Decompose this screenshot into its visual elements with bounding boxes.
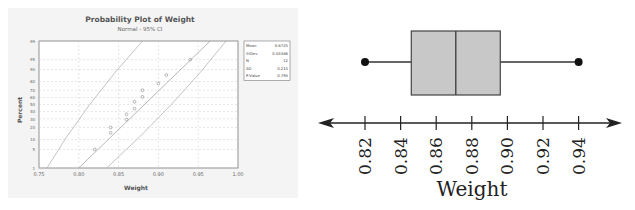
- svg-text:20: 20: [30, 125, 36, 130]
- svg-text:0.03386: 0.03386: [272, 51, 288, 56]
- tick-label: 0.86: [426, 137, 446, 175]
- svg-text:80: 80: [30, 79, 36, 84]
- probability-plot-svg: Probability Plot of Weight Normal - 95% …: [8, 8, 298, 198]
- svg-text:0.793: 0.793: [277, 73, 288, 78]
- min-point: [361, 58, 369, 66]
- svg-text:5: 5: [32, 147, 35, 152]
- prob-plot-ylabel: Percent: [16, 97, 23, 123]
- svg-text:1.00: 1.00: [232, 171, 243, 177]
- tick-label: 0.94: [569, 137, 589, 175]
- svg-text:30: 30: [30, 117, 36, 122]
- probability-plot: Probability Plot of Weight Normal - 95% …: [8, 8, 298, 198]
- svg-text:P-Value: P-Value: [246, 73, 260, 78]
- tick-label: 0.90: [497, 137, 517, 175]
- svg-text:0.90: 0.90: [153, 171, 164, 177]
- svg-text:12: 12: [283, 58, 288, 63]
- svg-text:70: 70: [30, 88, 36, 93]
- svg-text:0.85: 0.85: [113, 171, 124, 177]
- tick-label: 0.92: [533, 137, 553, 175]
- svg-text:AD: AD: [246, 66, 252, 71]
- box-plot-area: 0.820.840.860.880.900.920.94: [318, 31, 622, 175]
- max-point: [575, 58, 583, 66]
- svg-text:10: 10: [30, 137, 36, 142]
- svg-text:0.75: 0.75: [33, 171, 44, 177]
- box-plot-xlabel: Weight: [437, 177, 508, 201]
- svg-text:StDev: StDev: [246, 51, 258, 56]
- box-plot-svg: 0.820.840.860.880.900.920.94 Weight: [310, 0, 635, 210]
- svg-text:N: N: [246, 58, 249, 63]
- svg-text:0.80: 0.80: [73, 171, 84, 177]
- plot-area: 1510203040506070809095990.750.800.850.90…: [30, 39, 244, 177]
- prob-plot-xlabel: Weight: [124, 184, 148, 192]
- prob-plot-subtitle: Normal - 95% CI: [118, 26, 163, 32]
- svg-text:0.8725: 0.8725: [275, 43, 289, 48]
- svg-text:0.95: 0.95: [193, 171, 204, 177]
- svg-text:50: 50: [30, 102, 36, 107]
- svg-text:Mean: Mean: [246, 43, 257, 48]
- svg-text:40: 40: [30, 109, 36, 114]
- svg-text:95: 95: [30, 57, 36, 62]
- svg-text:60: 60: [30, 95, 36, 100]
- prob-plot-title: Probability Plot of Weight: [85, 15, 195, 24]
- svg-text:90: 90: [30, 67, 36, 72]
- tick-label: 0.88: [462, 137, 482, 175]
- stats-legend: Mean0.8725StDev0.03386N12AD0.215P-Value0…: [244, 41, 290, 81]
- svg-text:0.215: 0.215: [277, 66, 288, 71]
- svg-text:99: 99: [30, 39, 36, 44]
- tick-label: 0.82: [355, 137, 375, 175]
- tick-label: 0.84: [391, 137, 411, 175]
- box-plot: 0.820.840.860.880.900.920.94 Weight: [310, 0, 635, 210]
